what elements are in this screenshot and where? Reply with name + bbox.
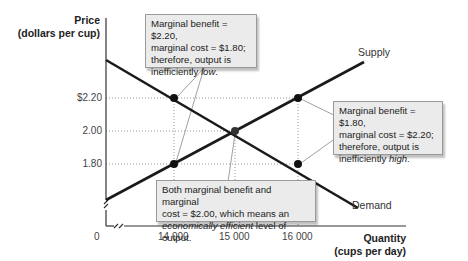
y-axis-title-line1: Price <box>18 14 100 27</box>
supply-label: Supply <box>358 46 390 58</box>
note-low-line2: marginal cost = $1.80; <box>151 42 251 54</box>
y-tick-180: 1.80 <box>83 158 102 169</box>
y-tick-220: $2.20 <box>77 92 102 103</box>
note-low-line1: Marginal benefit = $2.20, <box>151 18 251 42</box>
y-tick-200: 2.00 <box>83 125 102 136</box>
note-efficient-line2: cost = $2.00, which means an <box>162 208 310 220</box>
note-low-emphasis: low <box>201 66 215 77</box>
note-low-line4c: . <box>215 66 218 77</box>
note-high-line2: marginal cost = $2.20; <box>339 129 437 141</box>
note-high-emphasis: high <box>389 153 407 164</box>
note-inefficiently-low: Marginal benefit = $2.20, marginal cost … <box>145 14 257 68</box>
note-efficient: Both marginal benefit and marginal cost … <box>156 180 316 222</box>
note-high-line4: inefficiently high. <box>339 153 437 165</box>
note-efficient-line3: economically efficient level of output. <box>162 220 310 244</box>
note-efficient-emphasis: economically efficient <box>162 220 253 231</box>
callout-connectors <box>176 68 354 182</box>
y-axis-title-line2: (dollars per cup) <box>18 27 100 40</box>
note-efficient-line1: Both marginal benefit and marginal <box>162 184 310 208</box>
x-axis-title-line2: (cups per day) <box>314 245 406 258</box>
note-high-line1: Marginal benefit = $1.80, <box>339 105 437 129</box>
demand-label: Demand <box>352 199 392 211</box>
x-tick-origin: 0 <box>94 231 100 242</box>
note-low-line4a: inefficiently <box>151 66 201 77</box>
x-axis-title: Quantity (cups per day) <box>314 232 406 258</box>
x-axis-title-line1: Quantity <box>314 232 406 245</box>
note-high-line4a: inefficiently <box>339 153 389 164</box>
y-axis-title: Price (dollars per cup) <box>18 14 100 40</box>
note-inefficiently-high: Marginal benefit = $1.80, marginal cost … <box>333 101 443 155</box>
note-high-line4c: . <box>407 153 410 164</box>
note-high-line3: therefore, output is <box>339 141 437 153</box>
note-low-line3: therefore, output is <box>151 54 251 66</box>
note-low-line4: inefficiently low. <box>151 66 251 78</box>
